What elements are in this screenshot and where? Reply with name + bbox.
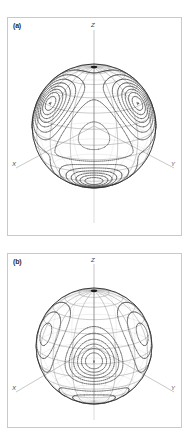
axis-label-y-a: Y (171, 161, 175, 168)
panel-b: (b) Z X Y (7, 253, 182, 428)
panel-a: (a) Z X Y (7, 17, 182, 236)
axis-label-x-b: X (12, 385, 16, 392)
panel-a-label: (a) (13, 21, 21, 30)
figure-container: (a) Z X Y (b) Z X Y (0, 0, 189, 433)
panel-b-plot-area: (b) Z X Y (8, 254, 181, 427)
panel-b-label: (b) (13, 257, 21, 266)
axis-label-z-a: Z (91, 22, 95, 29)
axis-label-z-b: Z (91, 257, 95, 264)
axis-label-x-a: X (12, 161, 16, 168)
panel-a-plot-area: (a) Z X Y (8, 18, 181, 235)
sphere-contour-plot-b (8, 254, 181, 427)
sphere-contour-plot-a (8, 18, 181, 235)
axis-label-y-b: Y (171, 385, 175, 392)
